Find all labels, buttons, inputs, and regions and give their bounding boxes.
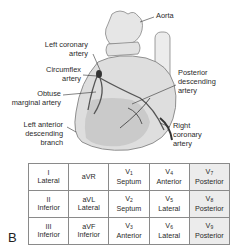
label-left-coronary-artery: Left coronaryartery [45, 40, 88, 58]
label-obtuse-marginal-artery: Obtusemarginal artery [12, 89, 61, 107]
table-cell: IIIInferior [29, 218, 69, 245]
table-cell: aVR [69, 164, 109, 191]
table-cell: V2Septum [109, 191, 149, 218]
table-cell: V1Septum [109, 164, 149, 191]
figure-letter: B [8, 230, 17, 245]
table-row: ILateral aVR V1Septum V4Anterior V7Poste… [29, 164, 230, 191]
table-cell: V3Anterior [109, 218, 149, 245]
table-row: IIIInferior aVFInferior V3Anterior V6Lat… [29, 218, 230, 245]
table-cell: ILateral [29, 164, 69, 191]
label-left-anterior-descending: Left anteriordescendingbranch [24, 120, 63, 147]
label-circumflex-artery: Circumflexartery [46, 65, 81, 83]
label-right-coronary-artery: Rightcoronaryartery [173, 121, 202, 148]
table-cell: V7Posterior [189, 164, 229, 191]
table-cell: V6Lateral [149, 218, 189, 245]
table-row: IIInferior aVLLateral V2Septum V5Lateral… [29, 191, 230, 218]
table-cell: V5Lateral [149, 191, 189, 218]
table-cell: aVLLateral [69, 191, 109, 218]
table-cell: IIInferior [29, 191, 69, 218]
label-posterior-descending-artery: Posteriordescendingartery [178, 68, 216, 95]
table-cell: V4Anterior [149, 164, 189, 191]
table-cell: aVFInferior [69, 218, 109, 245]
ecg-lead-table: ILateral aVR V1Septum V4Anterior V7Poste… [28, 163, 230, 245]
table-cell: V8Posterior [189, 191, 229, 218]
table-cell: V9Posterior [189, 218, 229, 245]
label-aorta: Aorta [156, 11, 174, 20]
